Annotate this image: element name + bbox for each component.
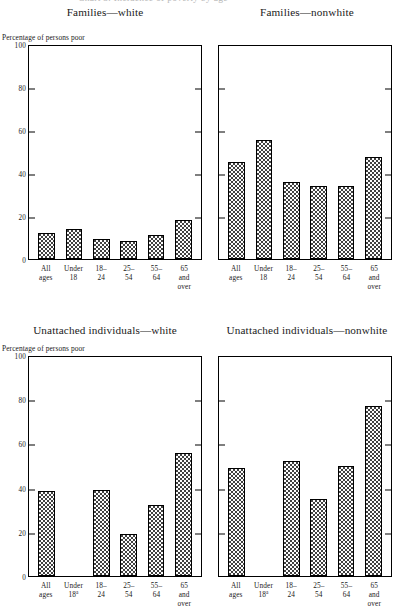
x-tick-label-line: 25–	[305, 264, 333, 273]
bar-slot	[250, 357, 277, 576]
bar-55-64[interactable]	[338, 186, 355, 259]
y-tick-label-60: 60	[18, 128, 26, 136]
y-tick-label-100: 100	[15, 353, 26, 361]
x-axis-labels-unattached-individuals-nonwhite: AllagesUnder18a18–2425–5455–6465andover	[218, 581, 392, 608]
bar-slot	[332, 357, 359, 576]
x-tick-label-all-ages: Allages	[32, 581, 60, 608]
y-tick-label-40: 40	[18, 171, 26, 179]
bar-slot	[60, 46, 87, 259]
bar-65-and-over[interactable]	[365, 406, 382, 576]
x-tick-label-25-54: 25–54	[305, 581, 333, 608]
bar-all-ages[interactable]	[38, 233, 55, 259]
x-tick-label-line: All	[32, 581, 60, 590]
bar-25-54[interactable]	[310, 499, 327, 576]
x-tick-label-line: 18–	[277, 264, 305, 273]
x-tick-label-under-18: Under18	[250, 264, 278, 292]
x-tick-label-line: 64	[143, 273, 171, 282]
x-tick-label-line: 64	[333, 590, 361, 599]
footnote-marker: a	[266, 589, 268, 595]
bar-slot	[115, 357, 142, 576]
bar-all-ages[interactable]	[228, 468, 245, 576]
x-tick-label-line: 65	[170, 581, 198, 590]
x-tick-label-line: ages	[32, 590, 60, 599]
plot-area-families-nonwhite	[218, 45, 392, 260]
x-tick-label-line: 55–	[333, 581, 361, 590]
bar-slot	[305, 46, 332, 259]
x-tick-label-65-and-over: 65andover	[170, 264, 198, 292]
x-tick-label-line: 24	[87, 590, 115, 599]
x-tick-label-line: ages	[222, 273, 250, 282]
x-tick-label-line: 24	[277, 590, 305, 599]
bar-slot	[223, 357, 250, 576]
bar-slot	[305, 357, 332, 576]
x-tick-label-line: 18–	[87, 581, 115, 590]
bar-group-families-nonwhite	[219, 46, 391, 259]
x-axis-labels-families-white: AllagesUnder1818–2425–5455–6465andover	[28, 264, 202, 292]
bar-65-and-over[interactable]	[365, 157, 382, 259]
bar-25-54[interactable]	[310, 186, 327, 259]
x-tick-label-all-ages: Allages	[222, 581, 250, 608]
x-tick-label-line: 18–	[87, 264, 115, 273]
bar-55-64[interactable]	[338, 466, 355, 577]
x-tick-label-line: All	[222, 581, 250, 590]
x-tick-label-line: 24	[277, 273, 305, 282]
x-axis-labels-unattached-individuals-white: AllagesUnder18a18–2425–5455–6465andover	[28, 581, 202, 608]
x-tick-label-line: 25–	[305, 581, 333, 590]
bar-65-and-over[interactable]	[175, 220, 192, 259]
y-tick-label-80: 80	[18, 397, 26, 405]
bar-slot	[88, 46, 115, 259]
x-tick-label-line: Under	[250, 264, 278, 273]
x-tick-label-line: 65	[170, 264, 198, 273]
x-tick-label-line: 24	[87, 273, 115, 282]
plot-area-unattached-individuals-nonwhite	[218, 356, 392, 577]
x-tick-label-all-ages: Allages	[222, 264, 250, 292]
x-tick-label-18-24: 18–24	[87, 264, 115, 292]
x-tick-label-under-18: Under18	[60, 264, 88, 292]
bar-65-and-over[interactable]	[175, 453, 192, 576]
bar-all-ages[interactable]	[228, 162, 245, 259]
chart-title-unattached-individuals-nonwhite: Unattached individuals—nonwhite	[210, 324, 404, 336]
plot-area-unattached-individuals-white: 020406080100	[28, 356, 202, 577]
x-tick-label-line: 25–	[115, 264, 143, 273]
bar-under-18[interactable]	[66, 229, 83, 259]
bar-slot	[360, 46, 387, 259]
x-tick-label-line: 54	[115, 590, 143, 599]
x-tick-label-line: 64	[143, 590, 171, 599]
y-tick-label-60: 60	[18, 441, 26, 449]
plot-area-families-white: 020406080100	[28, 45, 202, 260]
x-tick-label-25-54: 25–54	[115, 264, 143, 292]
x-tick-label-line: ages	[32, 273, 60, 282]
x-tick-label-line: 64	[333, 273, 361, 282]
x-tick-label-18-24: 18–24	[87, 581, 115, 608]
bar-under-18[interactable]	[256, 140, 273, 259]
bar-18-24[interactable]	[93, 490, 110, 576]
x-tick-label-line: over	[360, 599, 388, 608]
bar-55-64[interactable]	[148, 505, 165, 576]
x-tick-label-65-and-over: 65andover	[170, 581, 198, 608]
bar-group-unattached-individuals-white	[29, 357, 201, 576]
chart-title-unattached-individuals-white: Unattached individuals—white	[0, 324, 210, 336]
x-tick-label-line: ages	[222, 590, 250, 599]
bar-group-unattached-individuals-nonwhite	[219, 357, 391, 576]
bar-18-24[interactable]	[283, 182, 300, 259]
x-tick-label-line: over	[170, 599, 198, 608]
bar-slot	[33, 357, 60, 576]
x-tick-label-line: 25–	[115, 581, 143, 590]
x-tick-label-line: 18	[60, 273, 88, 282]
x-tick-label-all-ages: Allages	[32, 264, 60, 292]
x-tick-label-line: 65	[360, 264, 388, 273]
bar-group-families-white	[29, 46, 201, 259]
bar-25-54[interactable]	[120, 534, 137, 576]
x-tick-label-under-18a: Under18a	[250, 581, 278, 608]
bar-18-24[interactable]	[93, 239, 110, 259]
bar-55-64[interactable]	[148, 235, 165, 259]
bar-slot	[170, 46, 197, 259]
bar-25-54[interactable]	[120, 241, 137, 259]
y-tick-label-0: 0	[22, 257, 26, 265]
bar-all-ages[interactable]	[38, 491, 55, 576]
x-tick-label-line: 55–	[143, 264, 171, 273]
bar-18-24[interactable]	[283, 461, 300, 576]
x-tick-label-25-54: 25–54	[305, 264, 333, 292]
bar-slot	[360, 357, 387, 576]
x-tick-label-line: 18a	[60, 590, 88, 599]
